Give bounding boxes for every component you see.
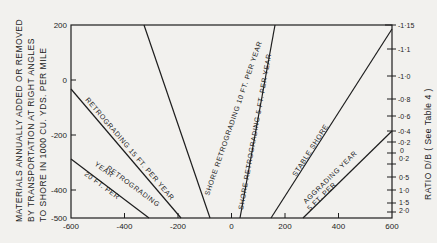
y-tick-label: -200: [51, 131, 68, 140]
y-tick-label: 0: [63, 76, 68, 85]
label-stable-shore: STABLE SHORE: [291, 123, 329, 178]
y-axis-title-line-2: BY TRANSPORTATION AT RIGHT ANGLES: [26, 38, 36, 222]
y-axis-title-line-3: TO SHORE IN 1000 CU. YDS. PER MILE: [38, 48, 48, 222]
y-axis-title: MATERIALS ANNUALLY ADDED OR REMOVED BY T…: [14, 19, 48, 222]
x-tick-label: -600: [63, 222, 80, 231]
x-tick-label: 0: [229, 222, 234, 231]
x-tick-label: 400: [332, 222, 346, 231]
y2-tick-label: 0·2: [399, 155, 409, 162]
y-axis-right: [385, 25, 396, 212]
y-axis-title-line-1: MATERIALS ANNUALLY ADDED OR REMOVED: [14, 19, 24, 222]
y2-tick-label: 2·0: [399, 207, 409, 214]
y2-tick-label: -1·1: [398, 46, 411, 53]
x-tick-label: -200: [170, 222, 187, 231]
y2-tick-label: -1·15: [398, 22, 414, 29]
y2-tick-label: 1·5: [399, 199, 409, 206]
chart: MATERIALS ANNUALLY ADDED OR REMOVED BY T…: [0, 0, 437, 243]
x-tick-label: -400: [116, 222, 133, 231]
y-axis-left: [71, 80, 76, 190]
label-5ft-retro: SHORE RETROGRADING 5 FT. PER YEAR: [237, 53, 272, 210]
line-retrograding-10ft: [144, 25, 210, 218]
y2-tick-label: -0·2: [398, 139, 411, 146]
y2-tick-label: 0: [400, 147, 404, 154]
y-tick-label: -400: [51, 186, 68, 195]
y2-tick-label: -0·4: [398, 128, 411, 135]
y2-tick-label: 0·5: [399, 174, 409, 181]
y2-tick-label: 1·0: [399, 187, 409, 194]
y2-tick-label: -0·6: [398, 113, 411, 120]
line-retrograding-15ft: [71, 89, 181, 218]
x-tick-label: 600: [385, 222, 399, 231]
y-tick-label: 200: [54, 21, 68, 30]
y2-axis-title: RATIO D/B ( See Table 4 ): [423, 88, 433, 200]
x-tick-label: 200: [278, 222, 292, 231]
y2-tick-label: -0·8: [398, 96, 411, 103]
y2-tick-label: -1·0: [398, 73, 411, 80]
